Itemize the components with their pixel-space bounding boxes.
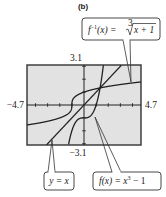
y-max-label: 3.1: [70, 53, 82, 63]
graph-figure: (b) 3.1 −3.1 −4.7 4.7 f−1(x) = 3 x + 1 y…: [0, 0, 166, 197]
identity-line-label: y = x: [48, 176, 69, 186]
x-min-label: −4.7: [7, 100, 24, 110]
y-min-label: −3.1: [69, 148, 86, 158]
radicand: x + 1: [133, 25, 154, 35]
x-max-label: 4.7: [145, 100, 157, 110]
panel-label: (b): [78, 2, 89, 11]
cubic-function-label: f(x) = x3 − 1: [99, 175, 146, 187]
